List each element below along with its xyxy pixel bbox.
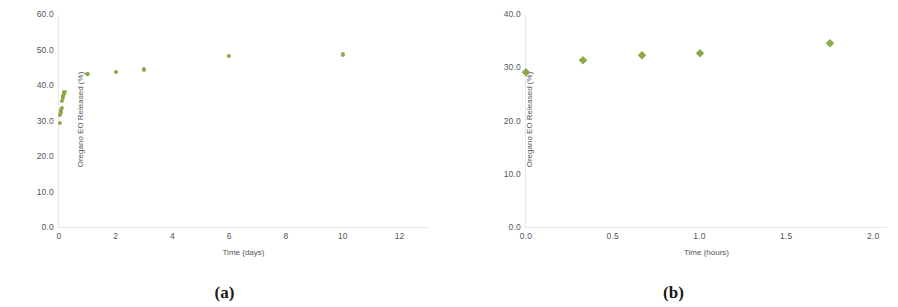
figure-release-profiles: Oregano EO Released (%) Time (days) 0.01… (0, 0, 898, 307)
y-tick-label-a: 50.0 (37, 45, 54, 55)
data-point (341, 52, 345, 56)
x-tick-label-b: 1.0 (693, 231, 705, 241)
x-tick-label-a: 4 (170, 231, 175, 241)
panel-b: Oregano EO Released (%) Time (hours) 0.0… (449, 0, 898, 307)
x-tick-label-a: 0 (57, 231, 62, 241)
y-tick-label-a: 30.0 (37, 116, 54, 126)
panel-a: Oregano EO Released (%) Time (days) 0.01… (0, 0, 449, 307)
data-point (227, 54, 231, 58)
data-point (826, 39, 834, 47)
x-tick-label-a: 10 (338, 231, 348, 241)
y-tick-label-b: 40.0 (504, 9, 521, 19)
data-point (59, 106, 63, 110)
y-tick-label-a: 40.0 (37, 80, 54, 90)
data-point (696, 49, 704, 57)
data-point (638, 51, 646, 59)
y-tick-label-a: 0.0 (42, 222, 54, 232)
y-tick-label-b: 10.0 (504, 169, 521, 179)
x-tick-label-b: 0.5 (607, 231, 619, 241)
y-tick-label-b: 20.0 (504, 116, 521, 126)
x-tick-label-b: 2.0 (867, 231, 879, 241)
data-point (579, 56, 587, 64)
y-tick-label-a: 60.0 (37, 9, 54, 19)
data-point (57, 121, 61, 125)
x-tick-label-b: 1.5 (780, 231, 792, 241)
x-axis-title-b: Time (hours) (684, 248, 729, 257)
plot-area-b: Oregano EO Released (%) Time (hours) 0.0… (525, 14, 887, 228)
y-tick-label-a: 20.0 (37, 151, 54, 161)
x-tick-label-a: 6 (227, 231, 232, 241)
panel-caption-b: (b) (449, 283, 898, 303)
data-point (85, 72, 89, 76)
x-tick-label-b: 0.0 (520, 231, 532, 241)
panel-caption-a: (a) (0, 283, 449, 303)
data-point (114, 70, 118, 74)
y-axis-title-b: Oregano EO Released (%) (525, 71, 534, 167)
x-tick-label-a: 2 (113, 231, 118, 241)
x-tick-label-a: 12 (395, 231, 405, 241)
data-point (142, 67, 146, 71)
y-tick-label-b: 30.0 (504, 62, 521, 72)
y-tick-label-a: 10.0 (37, 187, 54, 197)
y-axis-title-a: Oregano EO Released (%) (76, 71, 85, 167)
plot-area-a: Oregano EO Released (%) Time (days) 0.01… (58, 14, 428, 228)
x-tick-label-a: 8 (284, 231, 289, 241)
x-axis-title-a: Time (days) (223, 248, 265, 257)
data-point (62, 90, 66, 94)
